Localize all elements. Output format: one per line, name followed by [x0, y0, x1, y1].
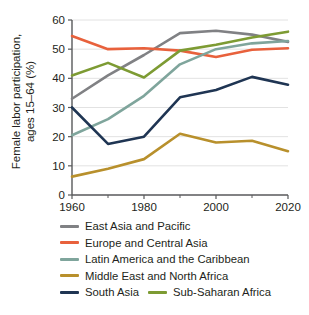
legend-label: East Asia and Pacific [85, 220, 191, 232]
legend-row: South AsiaSub-Saharan Africa [60, 284, 309, 301]
legend-item[interactable]: Middle East and North Africa [60, 270, 228, 282]
x-tick-label: 1980 [131, 201, 157, 213]
y-tick-label: 0 [59, 189, 65, 201]
legend-item[interactable]: South Asia [60, 286, 139, 298]
legend-item[interactable]: Latin America and the Caribbean [60, 253, 250, 265]
legend-item[interactable]: Sub-Saharan Africa [148, 286, 271, 298]
chart-figure: Female labor participation,ages 15–64 (%… [0, 0, 309, 315]
y-tick-label: 50 [52, 43, 65, 55]
legend-swatch-icon [60, 258, 79, 261]
legend-row: Latin America and the Caribbean [60, 251, 309, 268]
legend-swatch-icon [148, 291, 167, 294]
legend-swatch-icon [60, 291, 79, 294]
line-chart-plot: 01020304050601960198020002020 [0, 0, 309, 218]
chart-legend: East Asia and PacificEurope and Central … [60, 218, 309, 301]
legend-label: Middle East and North Africa [85, 270, 228, 282]
series-line [72, 41, 288, 135]
legend-row: East Asia and Pacific [60, 218, 309, 235]
legend-swatch-icon [60, 274, 79, 277]
legend-row: Europe and Central Asia [60, 235, 309, 252]
legend-item[interactable]: East Asia and Pacific [60, 220, 191, 232]
y-tick-label: 30 [52, 102, 65, 114]
legend-label: Latin America and the Caribbean [85, 253, 250, 265]
x-tick-label: 1960 [59, 201, 85, 213]
series-line [72, 36, 288, 57]
legend-swatch-icon [60, 241, 79, 244]
legend-label: South Asia [85, 286, 139, 298]
x-tick-label: 2020 [275, 201, 301, 213]
y-tick-label: 10 [52, 160, 65, 172]
legend-label: Sub-Saharan Africa [173, 286, 271, 298]
series-line [72, 32, 288, 78]
y-tick-label: 20 [52, 131, 65, 143]
x-tick-label: 2000 [203, 201, 229, 213]
legend-item[interactable]: Europe and Central Asia [60, 237, 207, 249]
legend-row: Middle East and North Africa [60, 268, 309, 285]
y-tick-label: 60 [52, 14, 65, 26]
legend-swatch-icon [60, 225, 79, 228]
y-tick-label: 40 [52, 72, 65, 84]
legend-label: Europe and Central Asia [85, 237, 207, 249]
